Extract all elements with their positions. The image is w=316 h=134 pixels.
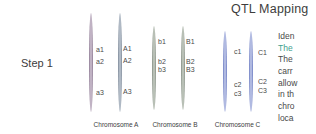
marker-A2: A2 [123,57,132,65]
description-text: Iden The The carr allow in th chro loca [278,31,297,124]
marker-C1: C1 [258,49,267,57]
marker-a2: a2 [96,58,104,66]
marker-b2: b2 [158,58,166,66]
description-line: loca [278,113,297,125]
marker-b1: b1 [158,38,166,46]
marker-B2: B2 [186,58,195,66]
description-line: carr [278,66,297,78]
marker-c1: c1 [234,48,241,56]
marker-B1: B1 [186,38,195,46]
qtl-mapping-title: QTL Mapping [231,2,308,16]
marker-b3: b3 [158,66,166,74]
marker-a1: a1 [96,46,104,54]
marker-C2: C2 [258,78,267,86]
chromosome-c-right-bar [249,31,253,112]
description-line: Iden [278,31,297,43]
chromosome-b-caption: Chromosome B [147,121,203,128]
marker-a3: a3 [96,89,104,97]
chromosome-a-caption: Chromosome A [88,121,144,128]
chromosome-c-left-bar [223,31,227,112]
marker-c3: c3 [234,90,241,98]
marker-C3: C3 [258,87,267,95]
marker-A3: A3 [123,88,132,96]
marker-A1: A1 [123,45,132,53]
chromosome-b-left-bar [152,26,156,110]
chromosome-b-right-bar [181,26,185,110]
chromosome-c-caption: Chromosome C [209,121,266,128]
description-line: chro [278,101,297,113]
description-line: allow [278,78,297,90]
description-line: in th [278,89,297,101]
marker-B3: B3 [186,66,195,74]
chromosome-a-left-bar [89,13,93,112]
description-line: The [278,54,297,66]
chromosome-a-right-bar [118,13,122,112]
description-line-highlighted: The [278,43,297,55]
marker-c2: c2 [234,81,241,89]
step-label: Step 1 [21,57,53,69]
